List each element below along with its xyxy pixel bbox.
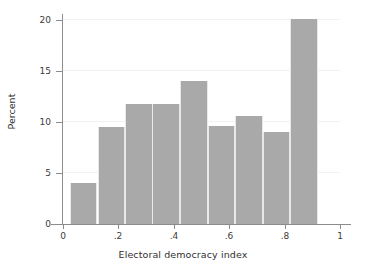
histogram-bar xyxy=(235,116,263,224)
x-axis-tick-label: .4 xyxy=(159,232,189,241)
histogram-bar xyxy=(263,132,291,224)
histogram-bar xyxy=(70,183,98,224)
histogram-figure: 05101520 0.2.4.6.81 Electoral democracy … xyxy=(0,0,366,273)
x-axis-tick-label: 0 xyxy=(48,232,78,241)
y-axis-tick-label: 15 xyxy=(11,67,51,76)
y-axis-tick xyxy=(56,173,62,174)
x-axis-tick-label: .6 xyxy=(214,232,244,241)
x-axis-tick xyxy=(229,224,230,229)
plot-area xyxy=(63,14,340,224)
histogram-bar xyxy=(208,126,236,224)
histogram-bar xyxy=(180,81,208,224)
histogram-bar xyxy=(125,104,153,224)
y-axis-tick-label: 0 xyxy=(11,220,51,229)
x-axis-tick xyxy=(340,224,341,229)
y-axis-tick xyxy=(56,122,62,123)
histogram-bar xyxy=(98,127,126,224)
x-axis-title: Electoral democracy index xyxy=(0,249,366,260)
x-axis-tick xyxy=(63,224,64,229)
x-axis-tick-label: .2 xyxy=(103,232,133,241)
y-axis-line xyxy=(62,14,63,225)
y-axis-tick-label: 5 xyxy=(11,169,51,178)
x-axis-tick-label: 1 xyxy=(325,232,355,241)
y-axis-title: Percent xyxy=(6,77,17,147)
x-axis-tick-label: .8 xyxy=(270,232,300,241)
x-axis-tick xyxy=(118,224,119,229)
histogram-bar xyxy=(152,104,180,224)
y-axis-tick xyxy=(56,71,62,72)
y-axis-tick-label: 10 xyxy=(11,118,51,127)
x-axis-line xyxy=(51,224,351,225)
y-axis-tick-label: 20 xyxy=(11,16,51,25)
x-axis-tick xyxy=(285,224,286,229)
x-axis-tick xyxy=(174,224,175,229)
y-axis-tick xyxy=(56,224,62,225)
histogram-bar xyxy=(290,19,318,224)
y-axis-tick xyxy=(56,20,62,21)
